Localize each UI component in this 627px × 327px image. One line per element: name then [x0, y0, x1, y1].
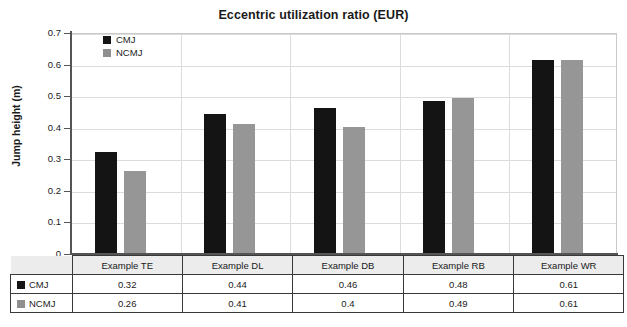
gridline-x — [290, 34, 291, 253]
gridline-y — [72, 34, 616, 35]
table-value-cell: 0.46 — [293, 275, 403, 294]
gray-square-swatch — [103, 49, 111, 57]
chart-legend: CMJ NCMJ — [103, 33, 142, 59]
bar-cmj-0 — [95, 152, 117, 253]
table-header-cell: Example TE — [72, 256, 182, 275]
y-axis-tick-label: 0.3 — [33, 153, 61, 164]
y-axis-tick-label: 0.2 — [33, 185, 61, 196]
table-value-cell: 0.41 — [182, 294, 292, 313]
table-value-cell: 0.4 — [293, 294, 403, 313]
bar-ncmj-2 — [343, 127, 365, 253]
table-value-cell: 0.26 — [72, 294, 182, 313]
bar-cmj-4 — [532, 60, 554, 253]
table-series-label-text: CMJ — [29, 279, 49, 290]
y-axis-tick — [64, 222, 71, 223]
table-value-cell: 0.61 — [514, 294, 624, 313]
y-axis-tick-label: 0.4 — [33, 122, 61, 133]
y-axis-tick-label: 0.5 — [33, 90, 61, 101]
table-value-cell: 0.44 — [182, 275, 292, 294]
table-series-label-cmj: CMJ — [11, 275, 73, 294]
y-axis-tick — [64, 128, 71, 129]
legend-item-ncmj: NCMJ — [103, 46, 142, 59]
legend-label-cmj: CMJ — [116, 34, 136, 45]
bar-ncmj-3 — [452, 98, 474, 253]
gridline-x — [400, 34, 401, 253]
table-header-cell: Example WR — [514, 256, 624, 275]
table-header-cell: Example DL — [182, 256, 292, 275]
black-square-swatch — [17, 281, 25, 289]
table-header-row: Example TEExample DLExample DBExample RB… — [11, 256, 624, 275]
table-row: CMJ0.320.440.460.480.61 — [11, 275, 624, 294]
y-axis-tick — [64, 96, 71, 97]
bar-ncmj-4 — [561, 60, 583, 253]
table-value-cell: 0.49 — [403, 294, 513, 313]
chart-figure: Eccentric utilization ratio (EUR) Jump h… — [0, 0, 627, 327]
y-axis-tick-label: 0.1 — [33, 216, 61, 227]
y-axis-tick-label: 0.7 — [33, 27, 61, 38]
bar-ncmj-0 — [124, 171, 146, 253]
table-value-cell: 0.32 — [72, 275, 182, 294]
table-corner-cell — [11, 256, 73, 275]
data-table: Example TEExample DLExample DBExample RB… — [10, 255, 624, 313]
black-square-swatch — [103, 36, 111, 44]
table-value-cell: 0.48 — [403, 275, 513, 294]
plot-area — [71, 33, 617, 254]
y-axis-title: Jump height (m) — [10, 36, 22, 216]
table-value-cell: 0.61 — [514, 275, 624, 294]
y-axis-tick-label: 0.6 — [33, 59, 61, 70]
y-axis-tick — [64, 191, 71, 192]
gridline-x — [509, 34, 510, 253]
y-axis-tick — [64, 159, 71, 160]
table-series-label-ncmj: NCMJ — [11, 294, 73, 313]
legend-label-ncmj: NCMJ — [116, 47, 142, 58]
gridline-x — [181, 34, 182, 253]
legend-item-cmj: CMJ — [103, 33, 142, 46]
table-row: NCMJ0.260.410.40.490.61 — [11, 294, 624, 313]
table-header-cell: Example RB — [403, 256, 513, 275]
chart-title: Eccentric utilization ratio (EUR) — [0, 8, 627, 22]
table-series-label-text: NCMJ — [29, 298, 55, 309]
y-axis-tick — [64, 65, 71, 66]
table-header-cell: Example DB — [293, 256, 403, 275]
y-axis-tick — [64, 33, 71, 34]
gray-square-swatch — [17, 300, 25, 308]
bar-ncmj-1 — [233, 124, 255, 253]
bar-cmj-2 — [314, 108, 336, 253]
bar-cmj-3 — [423, 101, 445, 253]
bar-cmj-1 — [204, 114, 226, 253]
